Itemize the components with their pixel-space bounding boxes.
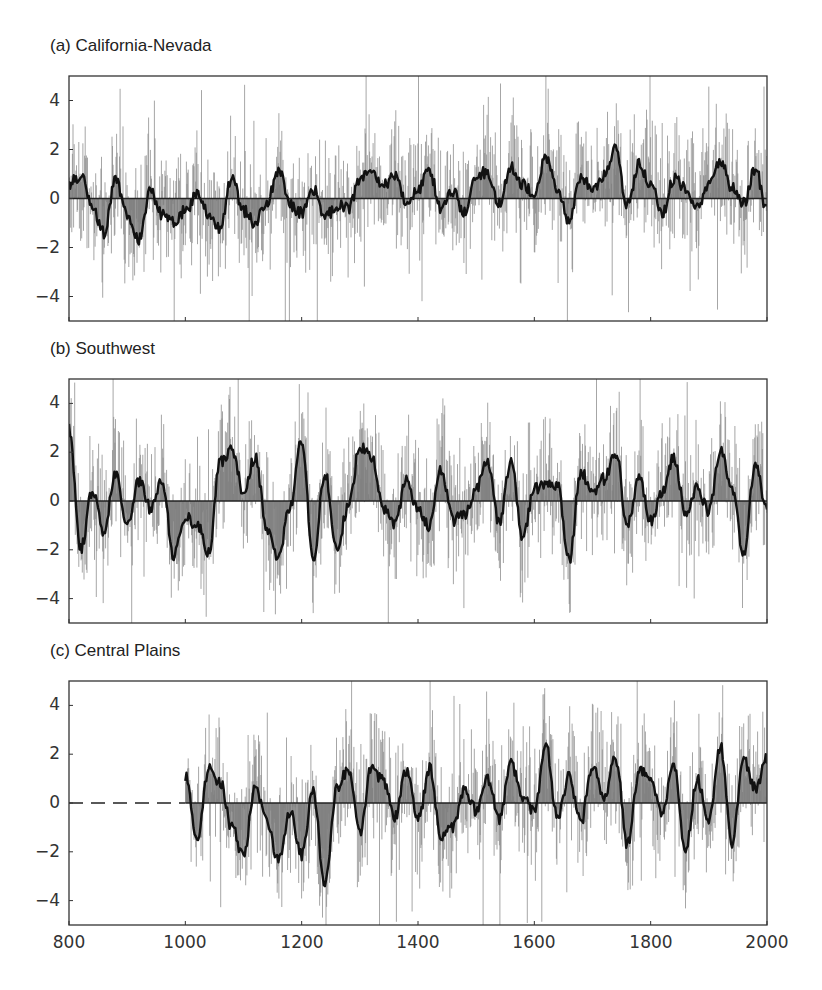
panel-a-plot	[69, 48, 768, 355]
panel-b-plot	[69, 342, 768, 669]
chart-canvas	[0, 0, 822, 990]
annual-bars	[186, 647, 768, 947]
panel-c-plot	[69, 647, 768, 947]
